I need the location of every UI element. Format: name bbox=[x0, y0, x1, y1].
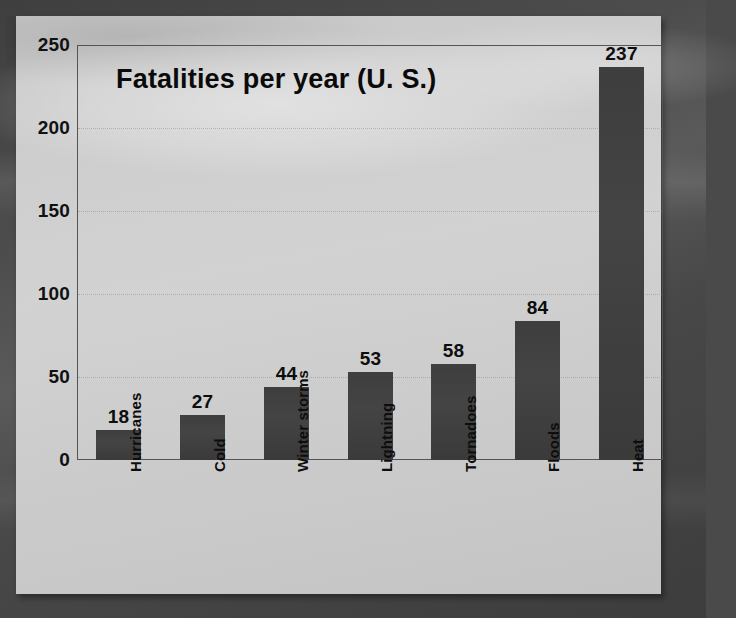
slide-panel: 050100150200250 18Hurricanes27Cold44Wint… bbox=[16, 16, 661, 594]
x-axis-label-cold: Cold bbox=[211, 438, 228, 472]
bar-value-label-tornadoes: 58 bbox=[413, 340, 494, 362]
y-tick-label-200: 200 bbox=[18, 117, 70, 139]
x-axis-label-tornadoes: Tornadoes bbox=[462, 396, 479, 472]
x-axis-label-winter-storms: Winter storms bbox=[294, 370, 311, 472]
bar-value-label-floods: 84 bbox=[497, 297, 578, 319]
y-tick-label-150: 150 bbox=[18, 200, 70, 222]
x-axis-label-floods: Floods bbox=[545, 422, 562, 472]
y-tick-label-250: 250 bbox=[18, 34, 70, 56]
bar-value-label-winter-storms: 44 bbox=[246, 363, 327, 385]
bar-value-label-cold: 27 bbox=[162, 391, 243, 413]
x-axis-label-lightning: Lightning bbox=[378, 403, 395, 472]
bar-heat[interactable] bbox=[599, 67, 644, 460]
y-tick-label-100: 100 bbox=[18, 283, 70, 305]
chart-title: Fatalities per year (U. S.) bbox=[116, 64, 437, 95]
bar-chart: 050100150200250 18Hurricanes27Cold44Wint… bbox=[16, 16, 661, 594]
x-axis-label-heat: Heat bbox=[629, 439, 646, 472]
bar-value-label-lightning: 53 bbox=[330, 348, 411, 370]
y-tick-label-50: 50 bbox=[18, 366, 70, 388]
y-tick-label-0: 0 bbox=[18, 449, 70, 471]
bar-value-label-hurricanes: 18 bbox=[78, 406, 159, 428]
x-axis-label-hurricanes: Hurricanes bbox=[127, 393, 144, 472]
bar-value-label-heat: 237 bbox=[581, 43, 662, 65]
